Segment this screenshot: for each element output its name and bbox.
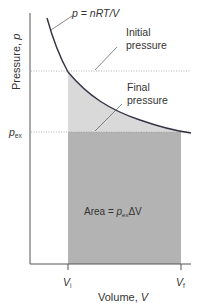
work-area-rectangle [68,132,181,264]
initial-pressure-leader-line [95,47,117,70]
final-pressure-label-line2: pressure [127,94,168,106]
equation-label: p = nRT/V [71,7,120,19]
final-pressure-label-line1: Final [127,81,150,93]
vi-label: Vi [63,276,71,289]
y-axis-title: Pressure, p [10,34,22,90]
vf-label: Vf [176,276,185,289]
equation-leader-line [51,16,72,30]
initial-pressure-label-line2: pressure [126,39,167,51]
pex-axis-label: pex [8,126,22,139]
area-label: Area = pexΔV [84,206,142,218]
pv-diagram: p = nRT/V Initial pressure Final pressur… [0,0,204,306]
initial-pressure-label-line1: Initial [126,26,151,38]
diagram-canvas: p = nRT/V Initial pressure Final pressur… [0,0,204,306]
x-axis-title: Volume, V [98,291,150,303]
